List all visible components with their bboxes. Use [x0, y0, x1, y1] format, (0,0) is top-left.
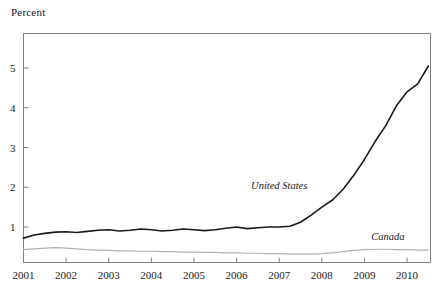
y-tick-label: 1 — [10, 221, 16, 233]
series-line-united-states — [24, 66, 429, 238]
x-tick-label: 2009 — [353, 269, 376, 281]
annotation-canada: Canada — [371, 231, 404, 242]
annotation-united-states: United States — [251, 180, 307, 191]
x-tick-label: 2010 — [396, 269, 419, 281]
x-tick-label: 2002 — [55, 269, 77, 281]
x-tick-label: 2008 — [311, 269, 334, 281]
chart-container: Percent 12345 20012002200320042005200620… — [0, 0, 446, 297]
x-tick-label: 2001 — [13, 269, 35, 281]
x-tick-label: 2007 — [268, 269, 291, 281]
x-axis-ticks: 2001200220032004200520062007200820092010 — [13, 258, 419, 281]
data-series-group — [24, 66, 429, 254]
y-tick-label: 2 — [10, 181, 16, 193]
series-annotations: United StatesCanada — [251, 180, 404, 241]
x-tick-label: 2005 — [183, 269, 206, 281]
series-line-canada — [24, 248, 429, 254]
x-tick-label: 2004 — [140, 269, 163, 281]
y-tick-label: 3 — [10, 142, 16, 154]
x-tick-label: 2006 — [226, 269, 249, 281]
x-tick-label: 2003 — [98, 269, 121, 281]
y-tick-label: 4 — [10, 102, 16, 114]
line-chart-plot: 12345 2001200220032004200520062007200820… — [0, 0, 446, 297]
y-axis-ticks: 12345 — [10, 62, 29, 233]
y-tick-label: 5 — [10, 62, 16, 74]
